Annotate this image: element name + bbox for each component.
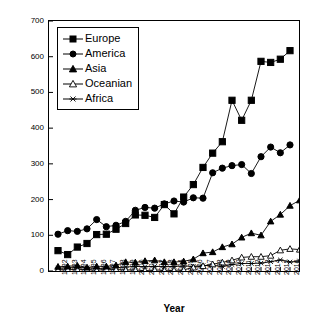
x-tick-label: 2002 (158, 259, 165, 275)
legend-item-america[interactable]: America (62, 46, 132, 61)
data-point-marker (113, 226, 119, 232)
data-point-marker (268, 144, 274, 150)
data-point-marker (258, 58, 264, 64)
data-point-marker (70, 36, 76, 42)
legend-label: Africa (84, 93, 113, 104)
legend-marker-america-icon (62, 48, 84, 60)
legend-marker-africa-icon (62, 93, 84, 105)
data-point-marker (152, 214, 158, 220)
data-point-marker (84, 226, 90, 232)
series-america (55, 142, 293, 237)
data-point-marker (94, 216, 100, 222)
legend-label: Europe (84, 33, 120, 44)
data-point-marker (287, 246, 293, 252)
x-tick-label: 2006 (196, 259, 203, 275)
data-point-marker (248, 97, 254, 103)
data-point-marker (248, 170, 254, 176)
x-tick-label: 2011 (245, 260, 252, 275)
legend-item-europe[interactable]: Europe (62, 31, 132, 46)
x-tick-label: 2001 (148, 259, 155, 275)
y-tick-label: 100 (14, 231, 44, 239)
data-point-marker (69, 96, 76, 101)
data-point-marker (70, 51, 76, 57)
data-point-marker (142, 212, 148, 218)
data-point-marker (267, 252, 273, 258)
data-point-marker (55, 231, 61, 237)
data-point-marker (103, 231, 109, 237)
x-tick-label: 1998 (119, 259, 126, 275)
y-tick-label: 300 (14, 160, 44, 168)
legend-item-africa[interactable]: Africa (62, 91, 132, 106)
x-tick-label: 2007 (206, 259, 213, 275)
data-point-marker (287, 202, 293, 208)
x-tick-label: 1994 (80, 259, 87, 275)
data-point-marker (267, 218, 273, 224)
x-tick-label: 2008 (216, 259, 223, 275)
series-line (58, 145, 290, 234)
x-tick-label: 2000 (138, 259, 145, 275)
legend-label: Oceanian (84, 78, 132, 89)
x-axis-title: Year (48, 303, 300, 314)
data-point-marker (190, 195, 196, 201)
data-point-marker (219, 165, 225, 171)
data-point-marker (277, 56, 283, 62)
x-tick-label: 1999 (129, 259, 136, 275)
data-point-marker (123, 220, 129, 226)
data-point-marker (209, 249, 215, 255)
legend-marker-asia-icon (62, 63, 84, 75)
y-tick-label: 700 (14, 17, 44, 25)
data-point-marker (296, 197, 299, 203)
data-point-marker (65, 228, 71, 234)
y-tick-label: 500 (14, 88, 44, 96)
x-tick-label: 2014 (274, 259, 281, 275)
x-tick-label: 2015 (283, 259, 290, 275)
x-tick-label: 1997 (109, 259, 116, 275)
x-tick-label: 2010 (235, 259, 242, 275)
data-point-marker (171, 198, 177, 204)
legend-marker-europe-icon (62, 33, 84, 45)
y-tick-label: 600 (14, 53, 44, 61)
y-tick-label: 400 (14, 124, 44, 132)
data-point-marker (171, 211, 177, 217)
data-point-marker (94, 231, 100, 237)
legend-label: America (84, 48, 125, 59)
data-point-marker (210, 170, 216, 176)
data-point-marker (74, 244, 80, 250)
data-point-marker (219, 139, 225, 145)
data-point-marker (74, 228, 80, 234)
data-point-marker (229, 97, 235, 103)
x-tick-label: 2004 (177, 259, 184, 275)
data-point-marker (181, 194, 187, 200)
data-point-marker (200, 164, 206, 170)
data-point-marker (229, 163, 235, 169)
data-point-marker (258, 154, 264, 160)
y-tick-label: 0 (14, 267, 44, 275)
data-point-marker (55, 248, 61, 254)
data-point-marker (200, 195, 206, 201)
legend-label: Asia (84, 63, 106, 74)
data-point-marker (248, 230, 254, 236)
x-tick-label: 2005 (187, 259, 194, 275)
legend-item-oceanian[interactable]: Oceanian (62, 76, 132, 91)
data-point-marker (152, 205, 158, 211)
data-point-marker (239, 117, 245, 123)
data-point-marker (190, 181, 196, 187)
x-tick-label: 1995 (90, 259, 97, 275)
data-point-marker (161, 201, 167, 207)
x-tick-label: 2009 (225, 259, 232, 275)
data-point-marker (238, 234, 244, 240)
x-tick-label: 2003 (167, 259, 174, 275)
data-point-marker (142, 204, 148, 210)
legend-item-asia[interactable]: Asia (62, 61, 132, 76)
data-point-marker (229, 241, 235, 247)
data-point-marker (65, 251, 71, 257)
x-tick-label: 2013 (264, 259, 271, 275)
data-point-marker (239, 161, 245, 167)
data-point-marker (132, 212, 138, 218)
y-tick-label: 200 (14, 196, 44, 204)
data-point-marker (287, 48, 293, 54)
data-point-marker (287, 142, 293, 148)
data-point-marker (268, 59, 274, 65)
x-tick-label: 1996 (100, 259, 107, 275)
chart-legend: EuropeAmericaAsiaOceanianAfrica (57, 27, 139, 110)
